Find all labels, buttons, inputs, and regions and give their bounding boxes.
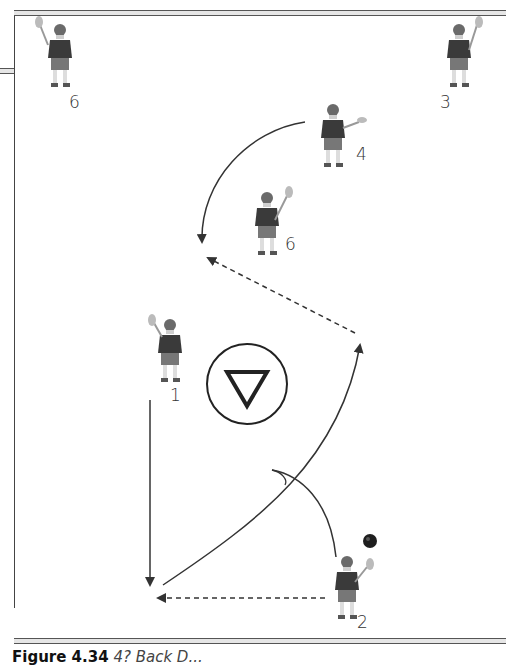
player-number-4: 4 xyxy=(356,144,367,164)
ball-icon xyxy=(363,534,377,548)
arc-4-to-6-area xyxy=(202,122,305,242)
player-number-6: 6 xyxy=(285,234,296,254)
pass-right-to-6 xyxy=(208,258,355,333)
dodge-arc-2 xyxy=(272,470,336,557)
player-number-2: 2 xyxy=(357,612,368,632)
figure-title: 4? Back D... xyxy=(113,648,202,666)
goal-crease xyxy=(207,344,287,424)
figure-caption: Figure 4.34 4? Back D... xyxy=(12,648,203,666)
movement-paths xyxy=(150,122,360,585)
player-1 xyxy=(148,314,182,382)
figure-label: Figure 4.34 xyxy=(12,648,109,666)
player-5 xyxy=(35,16,72,87)
player-number-1: 1 xyxy=(170,385,181,405)
player-3 xyxy=(447,16,483,87)
player-number-3: 3 xyxy=(440,92,451,112)
player-number-5: 6 xyxy=(69,92,80,112)
player-2 xyxy=(335,556,374,619)
triangle-icon xyxy=(227,372,267,406)
dodge-hook xyxy=(272,470,286,485)
pass-lines xyxy=(158,258,355,598)
